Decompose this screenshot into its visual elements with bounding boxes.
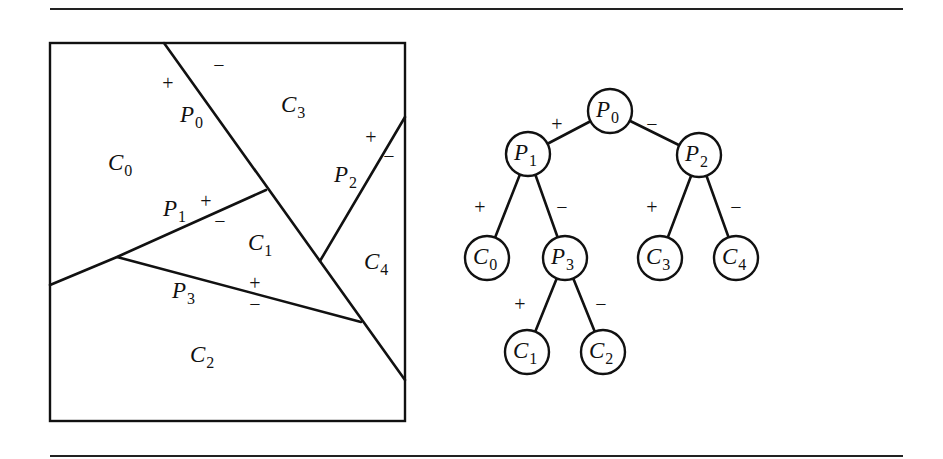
bsp-tree: P0P1P2C0P3C3C4C1C2 +−+−+−+−: [465, 89, 758, 374]
tree-node-c3: C3: [638, 236, 682, 280]
tree-node-c0: C0: [465, 236, 509, 280]
region-label-c0: C0: [108, 150, 132, 179]
tree-node-c1: C1: [505, 330, 549, 374]
tree-node-p2: P2: [677, 133, 721, 177]
tree-node-c4: C4: [714, 236, 758, 280]
positive-side-sign: +: [249, 272, 260, 294]
plane-label-p1: P1: [162, 196, 186, 225]
region-label-c1: C1: [248, 230, 272, 259]
plane-label-p0: P0: [179, 102, 203, 131]
tree-node-p1: P1: [506, 132, 550, 176]
tree-node-p3: P3: [543, 236, 587, 280]
edge-positive-sign: +: [646, 196, 657, 218]
positive-side-sign: +: [365, 126, 376, 148]
edge-negative-sign: −: [730, 196, 741, 218]
region-label-c3: C3: [281, 92, 305, 121]
edge-negative-sign: −: [646, 113, 657, 135]
plane-label-p3: P3: [171, 278, 195, 307]
negative-side-sign: −: [214, 210, 225, 232]
region-label-c2: C2: [190, 342, 214, 371]
region-label-c4: C4: [364, 249, 388, 278]
tree-node-p0: P0: [588, 89, 632, 133]
tree-node-c2: C2: [581, 330, 625, 374]
edge-negative-sign: −: [595, 293, 606, 315]
partition-frame: [50, 43, 405, 421]
negative-side-sign: −: [213, 54, 224, 76]
positive-side-sign: +: [162, 72, 173, 94]
edge-positive-sign: +: [514, 293, 525, 315]
edge-positive-sign: +: [551, 113, 562, 135]
bsp-figure: C0C1C2C3C4P0P1P2P3−++−+−+− P0P1P2C0P3C3C…: [0, 0, 943, 459]
edge-positive-sign: +: [474, 196, 485, 218]
plane-p1-line: [50, 190, 266, 285]
negative-side-sign: −: [383, 145, 394, 167]
edge-negative-sign: −: [556, 196, 567, 218]
plane-p2-line: [320, 117, 405, 261]
spatial-partition: C0C1C2C3C4P0P1P2P3−++−+−+−: [50, 43, 405, 421]
positive-side-sign: +: [200, 190, 211, 212]
plane-label-p2: P2: [333, 162, 357, 191]
negative-side-sign: −: [249, 293, 260, 315]
